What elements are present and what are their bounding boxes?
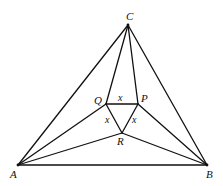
vertex-dot-C [127,24,130,27]
edge-CP [128,25,138,104]
edge-BC [128,25,207,165]
vertex-dot-B [206,164,209,167]
label-P: P [140,92,148,104]
edges [18,25,207,165]
edge-CQ [106,25,128,104]
label-A: A [9,168,17,180]
side-label-PR: x [131,114,137,125]
label-C: C [126,10,134,22]
label-R: R [116,135,124,147]
triangle-diagram: A B C Q P R x x x [0,0,223,186]
label-B: B [206,168,213,180]
edge-AR [18,133,122,165]
side-label-QR: x [104,114,110,125]
edge-BP [138,104,207,165]
label-Q: Q [94,94,102,106]
vertex-dot-A [17,164,20,167]
edge-AQ [18,104,106,165]
side-label-QP: x [117,92,123,103]
edge-CA [18,25,128,165]
edge-BR [122,133,207,165]
vertex-labels: A B C Q P R [9,10,213,180]
